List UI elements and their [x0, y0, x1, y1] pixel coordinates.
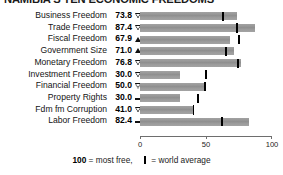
world-average-marker — [225, 47, 227, 56]
axis-tick — [206, 136, 207, 139]
world-average-marker — [222, 12, 224, 21]
chart-legend: 100 = most free, = world average — [0, 155, 283, 165]
row-plot — [140, 106, 272, 114]
row-label: Government Size — [41, 46, 107, 56]
x-axis: 050100 — [140, 136, 272, 140]
chart-row: Monetary Freedom76.8 — [0, 58, 283, 70]
world-average-tick-icon — [144, 156, 146, 164]
world-average-marker — [236, 23, 238, 32]
row-value: 71.0 — [108, 46, 132, 56]
row-plot — [140, 59, 272, 67]
chart-row: Trade Freedom87.4 — [0, 23, 283, 35]
row-plot — [140, 83, 272, 91]
row-value: 50.0 — [108, 81, 132, 91]
row-label: Fiscal Freedom — [48, 34, 107, 44]
row-label: Financial Freedom — [36, 81, 107, 91]
world-average-marker — [197, 94, 199, 103]
chart-row: Property Rights30.0 — [0, 93, 283, 105]
axis-tick-label: 0 — [138, 140, 142, 149]
chart-row: Financial Freedom50.0 — [0, 81, 283, 93]
row-label: Property Rights — [48, 93, 107, 103]
row-plot — [140, 24, 272, 32]
value-bar — [140, 118, 249, 126]
world-average-marker — [204, 82, 206, 91]
legend-average-text: = world average — [151, 155, 210, 165]
row-value: 82.4 — [108, 116, 132, 126]
row-plot — [140, 118, 272, 126]
legend-most-free-value: 100 — [72, 155, 86, 165]
freedoms-chart: Business Freedom73.8Trade Freedom87.4Fis… — [0, 11, 283, 133]
row-label: Fdm fm Corruption — [35, 105, 107, 115]
row-plot — [140, 47, 272, 55]
value-bar — [140, 47, 234, 55]
row-value: 41.0 — [108, 105, 132, 115]
chart-row: Labor Freedom82.4 — [0, 116, 283, 128]
row-value: 76.8 — [108, 58, 132, 68]
world-average-marker — [221, 117, 223, 126]
value-bar — [140, 59, 241, 67]
row-label: Labor Freedom — [48, 116, 107, 126]
row-value: 67.9 — [108, 34, 132, 44]
chart-row: Fdm fm Corruption41.0 — [0, 105, 283, 117]
row-plot — [140, 71, 272, 79]
row-value: 87.4 — [108, 23, 132, 33]
value-bar — [140, 71, 180, 79]
legend-most-free-text: = most free, — [89, 155, 133, 165]
value-bar — [140, 94, 180, 102]
row-label: Investment Freedom — [28, 70, 107, 80]
axis-tick-label: 100 — [266, 140, 279, 149]
row-label: Monetary Freedom — [34, 58, 107, 68]
row-value: 30.0 — [108, 70, 132, 80]
axis-tick — [271, 136, 272, 139]
page-title: NAMIBIA'S TEN ECONOMIC FREEDOMS — [4, 0, 214, 5]
value-bar — [140, 36, 230, 44]
chart-row: Business Freedom73.8 — [0, 11, 283, 23]
row-plot — [140, 12, 272, 20]
world-average-marker — [193, 105, 195, 114]
row-plot — [140, 94, 272, 102]
axis-tick-label: 50 — [202, 140, 210, 149]
row-plot — [140, 36, 272, 44]
row-value: 30.0 — [108, 93, 132, 103]
axis-tick — [140, 136, 141, 139]
value-bar — [140, 83, 206, 91]
row-label: Trade Freedom — [48, 23, 107, 33]
world-average-marker — [238, 35, 240, 44]
value-bar — [140, 106, 194, 114]
row-value: 73.8 — [108, 11, 132, 21]
world-average-marker — [237, 59, 239, 68]
row-label: Business Freedom — [35, 11, 107, 21]
chart-title-clip: NAMIBIA'S TEN ECONOMIC FREEDOMS — [0, 0, 283, 6]
world-average-marker — [205, 70, 207, 79]
